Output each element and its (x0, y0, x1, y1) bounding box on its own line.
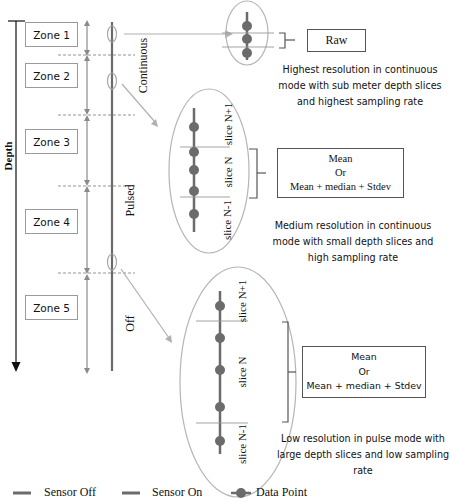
result-line: Or (358, 365, 369, 380)
caption-medium-resolution: Medium resolution in continuous mode wit… (250, 218, 456, 266)
slice-label-n: slice N (222, 148, 234, 196)
mode-label-continuous: Continuous (136, 31, 151, 101)
result-line: Mean + median + Stdev (306, 379, 421, 394)
caption-line: and highest sampling rate (264, 94, 456, 110)
slice-label-n-minus-1-low: slice N-1 (236, 414, 248, 474)
slice-label-n-minus-1: slice N-1 (221, 190, 233, 250)
data-point-icon (189, 165, 199, 175)
zone-extent-arrows (84, 20, 90, 374)
depth-axis-label: Depth (2, 136, 14, 176)
data-point-icon (215, 333, 225, 343)
caption-line: mode with sub meter depth slices (264, 78, 456, 94)
mode-label-off: Off (123, 314, 138, 334)
data-point-icon (189, 122, 199, 132)
result-box-medium: Mean Or Mean + median + Stdev (277, 148, 404, 198)
result-line: Mean (351, 350, 377, 365)
caption-line: rate (270, 463, 456, 479)
caption-line: Low resolution in pulse mode with (270, 431, 456, 447)
caption-low-resolution: Low resolution in pulse mode with large … (270, 431, 456, 479)
data-point-icon (242, 48, 252, 58)
caption-line: mode with small depth slices and (250, 234, 456, 250)
caption-line: high sampling rate (250, 250, 456, 266)
result-line: Mean + median + Stdev (290, 180, 391, 194)
result-line: Mean (329, 152, 353, 166)
mode-label-pulsed: Pulsed (123, 181, 138, 221)
legend-sensor-on: Sensor On (152, 485, 202, 500)
zone-box-4: Zone 4 (25, 209, 78, 234)
legend-data-point: Data Point (256, 485, 307, 500)
slice-label-n-plus-1: slice N+1 (222, 94, 234, 154)
caption-line: Highest resolution in continuous (264, 62, 456, 78)
slice-label-n-low: slice N (236, 348, 248, 396)
sensor-resolution-diagram: Depth Zone 1 Zone 2 Zone 3 Zone 4 Zone 5… (0, 0, 456, 503)
zone-box-2: Zone 2 (25, 63, 78, 88)
data-point-icon (242, 21, 252, 31)
result-box-low: Mean Or Mean + median + Stdev (302, 346, 426, 398)
data-point-icon (215, 402, 225, 412)
zone-box-5: Zone 5 (25, 295, 78, 320)
caption-high-resolution: Highest resolution in continuous mode wi… (264, 62, 456, 110)
detail-high-resolution (222, 1, 295, 65)
slice-label-n-plus-1-low: slice N+1 (236, 271, 248, 331)
data-point-icon (215, 436, 225, 446)
result-box-raw: Raw (307, 29, 366, 52)
data-point-icon (215, 365, 225, 375)
caption-line: Medium resolution in continuous (250, 218, 456, 234)
legend-sensor-off: Sensor Off (44, 485, 96, 500)
data-point-icon (189, 209, 199, 219)
legend-label: Data Point (256, 485, 307, 500)
depth-arrow-icon (12, 362, 21, 372)
data-point-icon (189, 147, 199, 157)
data-point-icon (215, 301, 225, 311)
data-point-swatch (236, 488, 246, 498)
legend-label: Sensor On (152, 485, 202, 500)
zone-box-3: Zone 3 (25, 129, 78, 154)
zone-box-1: Zone 1 (25, 22, 78, 47)
result-line: Or (335, 166, 346, 180)
data-point-icon (242, 34, 252, 44)
depth-axis (8, 21, 25, 372)
data-point-icon (189, 186, 199, 196)
caption-line: large depth slices and low sampling (270, 447, 456, 463)
legend-label: Sensor Off (44, 485, 96, 500)
result-raw-text: Raw (326, 33, 348, 48)
